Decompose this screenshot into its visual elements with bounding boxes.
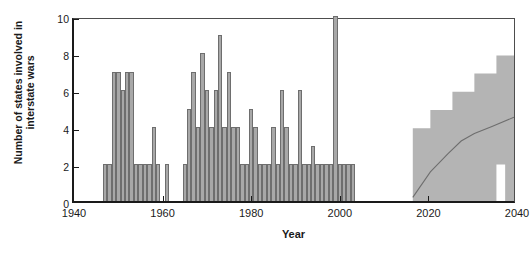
bar bbox=[165, 164, 169, 201]
y-axis-title: Number of states involved in interstate … bbox=[12, 0, 36, 185]
y-axis-tick-mark bbox=[74, 56, 79, 57]
x-axis-tick-label: 2020 bbox=[416, 208, 440, 219]
x-axis-tick-label: 2000 bbox=[328, 208, 352, 219]
y-axis-tick-mark bbox=[74, 19, 79, 20]
y-axis-tick-mark bbox=[74, 130, 79, 131]
x-axis-tick-mark bbox=[428, 196, 429, 201]
bar bbox=[156, 164, 160, 201]
x-axis-tick-label: 1980 bbox=[239, 208, 263, 219]
x-axis-tick-label: 1940 bbox=[62, 208, 86, 219]
plot-inner bbox=[74, 19, 514, 201]
projection-uncertainty-area bbox=[413, 55, 514, 201]
y-axis-tick-label: 6 bbox=[43, 88, 69, 98]
x-axis-tick-mark bbox=[251, 196, 252, 201]
y-axis-tick-label: 10 bbox=[43, 14, 69, 24]
x-axis-tick-label: 2040 bbox=[505, 208, 529, 219]
x-axis-tick-label: 1960 bbox=[150, 208, 174, 219]
y-axis-tick-label: 4 bbox=[43, 125, 69, 135]
y-axis-tick-mark bbox=[74, 93, 79, 94]
plot-area: 0246810194019601980200020202040 bbox=[72, 18, 515, 203]
x-axis-tick-mark bbox=[340, 196, 341, 201]
x-axis-title: Year bbox=[72, 228, 515, 240]
y-axis-tick-label: 8 bbox=[43, 51, 69, 61]
chart-figure: Number of states involved in interstate … bbox=[0, 0, 532, 257]
bar bbox=[351, 164, 355, 201]
y-axis-tick-label: 2 bbox=[43, 162, 69, 172]
x-axis-tick-mark bbox=[163, 196, 164, 201]
y-axis-tick-mark bbox=[74, 167, 79, 168]
